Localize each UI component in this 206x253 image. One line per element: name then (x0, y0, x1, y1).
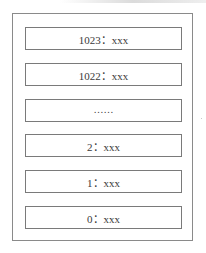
stack-slot-1023: 1023：xxx (25, 27, 182, 50)
stack-slot-1: 1：xxx (25, 170, 182, 193)
slot-label: …… (94, 104, 114, 115)
stack-slot-ellipsis: …… (25, 99, 182, 122)
slot-label: 0：xxx (87, 210, 120, 226)
slot-label: 1022：xxx (79, 67, 129, 83)
stack-slot-1022: 1022：xxx (25, 63, 182, 86)
scan-artifact (201, 118, 202, 119)
cropped-caption-fragment (60, 0, 206, 3)
stack-slot-2: 2：xxx (25, 134, 182, 157)
slot-label: 1：xxx (87, 174, 120, 190)
slot-label: 2：xxx (87, 138, 120, 154)
slot-label: 1023：xxx (79, 31, 129, 47)
stack-slot-0: 0：xxx (25, 206, 182, 229)
